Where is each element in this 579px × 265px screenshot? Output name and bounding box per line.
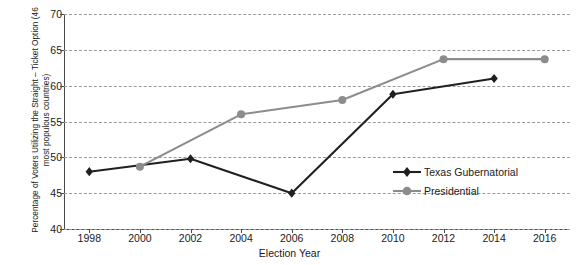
y-tick-label-45: 45 <box>26 188 62 198</box>
data-point-2000 <box>136 163 144 171</box>
data-point-2004 <box>237 110 245 118</box>
data-point-2002 <box>187 154 194 163</box>
legend-label: Texas Gubernatorial <box>424 166 518 178</box>
x-axis-tick-labels: 1998200020022004200620082010201220142016 <box>64 232 570 248</box>
x-tick-label-2000: 2000 <box>128 232 151 244</box>
y-tick-label-50: 50 <box>26 152 62 162</box>
x-tick-label-2014: 2014 <box>482 232 505 244</box>
x-tick-label-2008: 2008 <box>331 232 354 244</box>
x-tick-label-2006: 2006 <box>280 232 303 244</box>
y-tick-label-65: 65 <box>26 45 62 55</box>
x-tick-label-2016: 2016 <box>533 232 556 244</box>
chart-figure: Percentage of Voters Utilizing the Strai… <box>0 0 579 265</box>
x-axis-title: Election Year <box>0 247 579 259</box>
x-tick-label-2002: 2002 <box>179 232 202 244</box>
data-point-2014 <box>490 74 497 83</box>
circle-icon <box>392 184 422 198</box>
y-tick-label-40: 40 <box>26 224 62 234</box>
legend-label: Presidential <box>424 185 479 197</box>
x-tick-label-2010: 2010 <box>381 232 404 244</box>
legend-item-texas-gubernatorial: Texas Gubernatorial <box>392 163 518 180</box>
y-tick-label-70: 70 <box>26 9 62 19</box>
series-line-presidential <box>140 59 545 166</box>
y-tick-label-60: 60 <box>26 81 62 91</box>
data-point-2016 <box>541 55 549 63</box>
x-tick-label-2004: 2004 <box>229 232 252 244</box>
x-tick-label-2012: 2012 <box>432 232 455 244</box>
y-tick-label-55: 55 <box>26 117 62 127</box>
data-point-1998 <box>86 167 93 176</box>
y-axis-tick-labels: 70656055504540 <box>22 0 62 265</box>
data-point-2008 <box>338 96 346 104</box>
chart-legend: Texas GubernatorialPresidential <box>392 163 564 203</box>
legend-item-presidential: Presidential <box>392 182 479 199</box>
data-point-2012 <box>440 55 448 63</box>
y-tick-mark-40 <box>60 229 64 230</box>
diamond-icon <box>392 165 422 179</box>
x-tick-label-1998: 1998 <box>78 232 101 244</box>
